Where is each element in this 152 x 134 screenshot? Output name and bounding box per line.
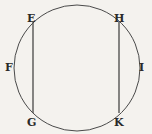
label-e: E: [27, 12, 35, 25]
label-f: F: [5, 61, 13, 74]
label-k: K: [114, 116, 124, 129]
label-i: I: [139, 61, 144, 74]
label-h: H: [114, 12, 124, 25]
label-g: G: [27, 116, 36, 129]
circle-diagram: E F G H I K: [0, 0, 152, 134]
